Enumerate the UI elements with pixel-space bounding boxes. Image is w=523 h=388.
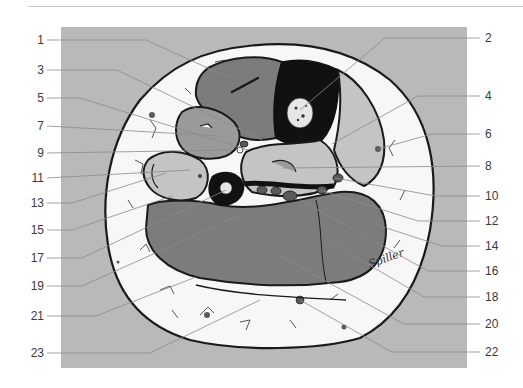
- label-13: 13: [20, 197, 44, 209]
- label-6: 6: [485, 128, 509, 140]
- label-2: 2: [485, 32, 509, 44]
- label-7: 7: [20, 120, 44, 132]
- label-8: 8: [485, 160, 509, 172]
- label-11: 11: [20, 172, 44, 184]
- label-19: 19: [20, 280, 44, 292]
- leg-cross-section-diagram: Spiller: [0, 0, 523, 388]
- label-18: 18: [485, 291, 509, 303]
- label-20: 20: [485, 318, 509, 330]
- label-16: 16: [485, 265, 509, 277]
- label-22: 22: [485, 346, 509, 358]
- label-17: 17: [20, 252, 44, 264]
- label-10: 10: [485, 190, 509, 202]
- label-5: 5: [20, 92, 44, 104]
- posterior-muscle-group: [146, 192, 386, 285]
- label-12: 12: [485, 215, 509, 227]
- label-21: 21: [20, 310, 44, 322]
- label-3: 3: [20, 64, 44, 76]
- label-23: 23: [20, 347, 44, 359]
- label-4: 4: [485, 90, 509, 102]
- label-15: 15: [20, 224, 44, 236]
- small-vessel: [198, 174, 202, 178]
- label-9: 9: [20, 147, 44, 159]
- label-14: 14: [485, 240, 509, 252]
- label-1: 1: [20, 34, 44, 46]
